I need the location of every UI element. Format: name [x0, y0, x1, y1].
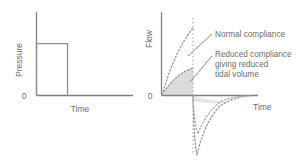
flow-time-axis-label: Time: [253, 102, 272, 112]
reduced-compliance-annotation-line2: giving reduced: [215, 60, 269, 69]
flow-axis-label: Flow: [144, 29, 154, 48]
reduced-compliance-annotation-line1: Reduced compliance: [215, 50, 292, 59]
normal-compliance-annotation: Normal compliance: [215, 30, 286, 39]
flow-zero-label: 0: [148, 91, 153, 101]
ventilation-waveform-figure: Pressure 0 Time: [0, 0, 308, 161]
reduced-compliance-annotation-line3: tidal volume: [215, 70, 259, 79]
flow-time-panel: Normal compliance Reduced compliance giv…: [0, 0, 308, 161]
normal-compliance-leader-line: [188, 34, 212, 56]
